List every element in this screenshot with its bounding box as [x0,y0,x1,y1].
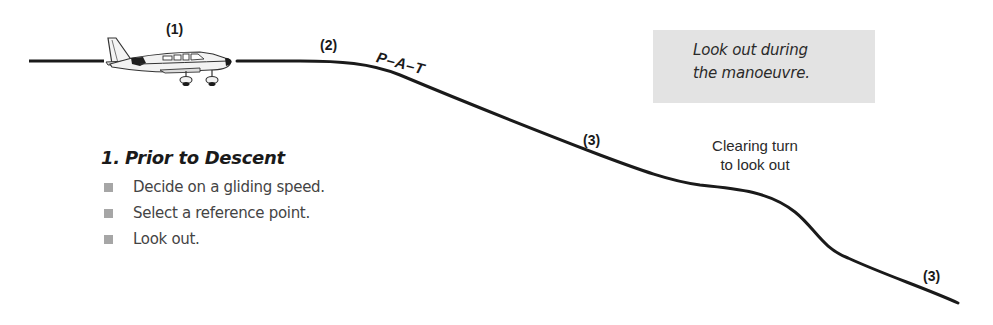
checklist-item: Decide on a gliding speed. [101,174,325,200]
note-line-1: Look out during [693,39,875,62]
checklist-item: Select a reference point. [101,200,325,226]
stage-label-3-final: (3) [923,269,940,283]
section-title: Prior to Descent [125,147,285,168]
bullet-square-icon [104,209,113,218]
checklist-item-text: Select a reference point. [133,204,310,222]
note-box: Look out during the manoeuvre. [653,30,875,103]
clearing-turn-annotation: Clearing turn to look out [690,136,820,174]
section-number: 1. [101,146,125,170]
checklist: Decide on a gliding speed. Select a refe… [101,174,325,252]
checklist-item-text: Look out. [133,230,200,248]
bullet-square-icon [104,183,113,192]
stage-label-3-descent: (3) [583,133,600,147]
bullet-square-icon [104,235,113,244]
clearing-turn-line-2: to look out [690,155,820,174]
stage-label-1: (1) [166,22,183,36]
clearing-turn-line-1: Clearing turn [690,136,820,155]
stage-label-2: (2) [320,38,337,52]
prior-to-descent-section: 1.Prior to Descent Decide on a gliding s… [101,146,325,252]
section-heading: 1.Prior to Descent [101,146,325,170]
airplane-icon [106,38,232,86]
checklist-item-text: Decide on a gliding speed. [133,178,325,196]
checklist-item: Look out. [101,226,325,252]
note-line-2: the manoeuvre. [693,62,875,85]
